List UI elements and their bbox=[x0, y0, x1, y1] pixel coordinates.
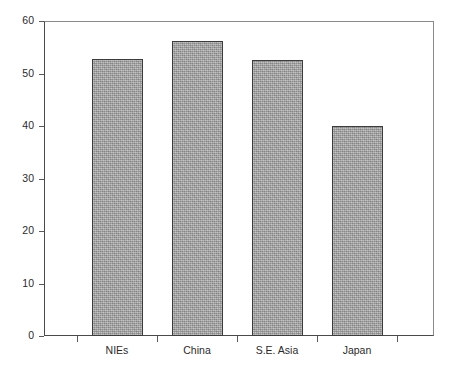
y-tick-label-10: 10 bbox=[22, 277, 34, 290]
x-tick-label-china: China bbox=[157, 343, 237, 357]
bar-nies[interactable] bbox=[92, 59, 143, 336]
x-tick-mark-2 bbox=[237, 336, 238, 342]
x-tick-label-se-asia: S.E. Asia bbox=[237, 343, 317, 357]
bar-chart: 60 50 40 30 20 10 0 bbox=[0, 0, 456, 371]
x-tick-mark-3 bbox=[317, 336, 318, 342]
y-tick-label-60: 60 bbox=[22, 14, 34, 27]
bar-japan[interactable] bbox=[332, 126, 383, 336]
y-tick-label-30: 30 bbox=[22, 172, 34, 185]
x-tick-mark-4 bbox=[397, 336, 398, 342]
x-tick-mark-0 bbox=[77, 336, 78, 342]
y-tick-label-0: 0 bbox=[28, 329, 34, 342]
y-tick-label-20: 20 bbox=[22, 224, 34, 237]
y-tick-label-50: 50 bbox=[22, 67, 34, 80]
x-tick-label-japan: Japan bbox=[317, 343, 397, 357]
x-tick-label-nies: NIEs bbox=[77, 343, 157, 357]
bar-china[interactable] bbox=[172, 41, 223, 336]
bars-layer bbox=[44, 21, 434, 336]
y-tick-label-40: 40 bbox=[22, 119, 34, 132]
y-axis: 60 50 40 30 20 10 0 bbox=[0, 21, 44, 336]
x-tick-mark-1 bbox=[157, 336, 158, 342]
bar-se-asia[interactable] bbox=[252, 60, 303, 336]
x-axis: NIEs China S.E. Asia Japan bbox=[44, 336, 434, 371]
